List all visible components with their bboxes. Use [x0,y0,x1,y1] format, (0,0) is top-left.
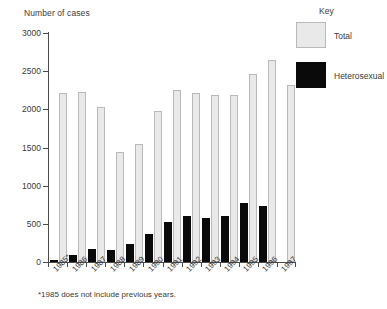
legend-swatch-heterosexual-icon [296,62,326,88]
y-axis-title: Number of cases [24,8,90,18]
bar-total [135,144,143,262]
bar-heterosexual [221,216,229,262]
y-axis-tick-label: 500 [1,220,41,229]
bar-heterosexual [259,206,267,262]
bar-total [59,93,67,262]
y-axis-tick-label: 1500 [1,144,41,153]
bar-heterosexual [240,203,248,262]
bar-total [211,95,219,262]
x-axis-tick [48,263,49,267]
bar-total [268,60,276,262]
bar-total [173,90,181,263]
bars-layer [48,33,296,262]
bar-total [249,74,257,262]
bar-total [116,152,124,262]
bar-total [97,107,105,262]
bar-heterosexual [183,216,191,262]
bar-total [192,93,200,262]
x-axis-tick [201,263,202,267]
y-axis-tick-label: 2000 [1,105,41,114]
bar-heterosexual [126,244,134,262]
legend-label-heterosexual: Heterosexual [334,71,384,81]
bar-total [154,111,162,262]
x-axis-tick [258,263,259,267]
y-axis-tick-label: 3000 [1,29,41,38]
legend-swatch-total-icon [296,22,326,48]
x-axis-tick [277,263,278,267]
bar-heterosexual [145,234,153,262]
legend-title: Key [319,6,334,16]
chart-footnote: *1985 does not include previous years. [38,290,176,299]
y-axis-tick-label: 1000 [1,182,41,191]
bar-chart: Number of cases 050010001500200025003000… [0,0,387,309]
bar-total [230,95,238,262]
x-axis-tick [239,263,240,267]
bar-heterosexual [164,222,172,263]
y-axis-tick-label: 2500 [1,67,41,76]
y-axis-tick-label: 0 [1,258,41,267]
legend-label-total: Total [334,31,352,41]
bar-total [287,85,295,262]
x-axis-tick [220,263,221,267]
bar-total [78,92,86,262]
bar-heterosexual [202,218,210,262]
